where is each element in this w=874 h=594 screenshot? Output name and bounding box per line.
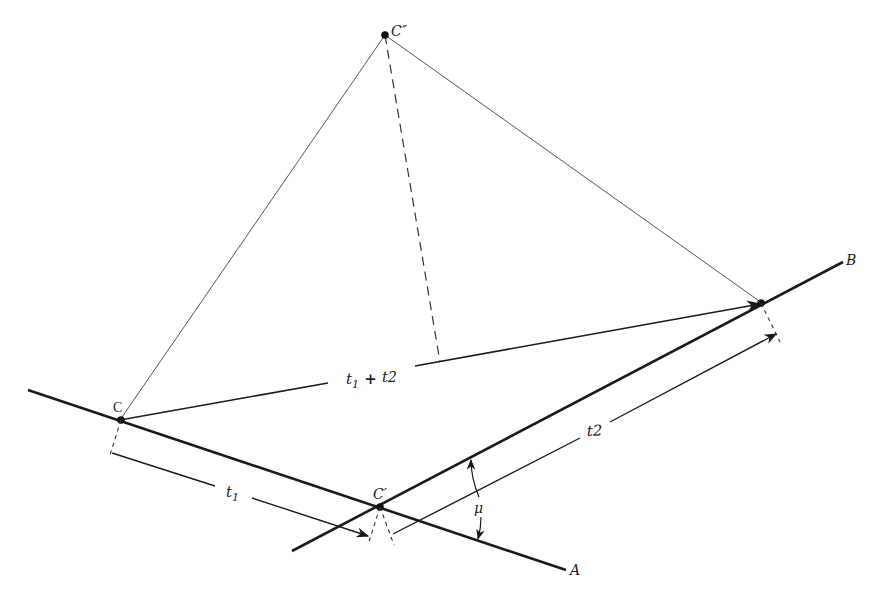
label-c: C bbox=[113, 400, 122, 415]
extension-c-prime-left bbox=[368, 507, 380, 545]
label-a: A bbox=[568, 562, 580, 578]
extension-c bbox=[110, 420, 121, 455]
geometry-diagram: C″ C C′ A B μ t1 t2 t1 + t2 bbox=[0, 0, 874, 594]
line-c-double-prime-to-b-point bbox=[385, 35, 762, 303]
label-t2: t2 bbox=[587, 421, 603, 440]
label-t1: t1 bbox=[226, 483, 239, 504]
label-mu: μ bbox=[474, 500, 483, 516]
line-a bbox=[28, 390, 566, 570]
label-t1-plus-t2-plus: + bbox=[359, 370, 382, 388]
label-b: B bbox=[845, 252, 856, 268]
label-t1-plus-t2: t1 + t2 bbox=[346, 368, 397, 391]
dimension-t2-head bbox=[610, 334, 776, 422]
label-t1-sub: 1 bbox=[232, 491, 239, 504]
vector-t1-plus-t2-head bbox=[415, 304, 760, 366]
label-t2-sub: 2 bbox=[592, 421, 603, 439]
dimension-t2-tail bbox=[393, 438, 580, 534]
angle-mu-arc-lower bbox=[478, 517, 481, 539]
label-t1-plus-t2-sub1: 1 bbox=[352, 378, 359, 391]
dimension-t1-tail bbox=[112, 453, 215, 486]
label-c-double-prime: C″ bbox=[391, 23, 408, 39]
line-c-to-c-double-prime bbox=[120, 35, 385, 420]
label-c-prime: C′ bbox=[373, 486, 388, 502]
vector-t1-plus-t2-tail bbox=[120, 383, 328, 420]
point-c-double-prime bbox=[381, 31, 389, 39]
dashed-perpendicular bbox=[385, 35, 440, 362]
label-t1-plus-t2-sub2: 2 bbox=[387, 369, 397, 385]
dimension-t1-head bbox=[252, 498, 368, 536]
